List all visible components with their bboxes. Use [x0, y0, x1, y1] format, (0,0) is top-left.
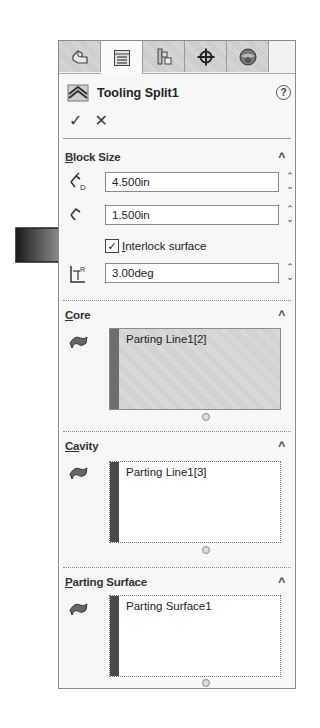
surface-body-icon [67, 462, 89, 484]
collapse-cavity-chevron-icon[interactable]: ^ [278, 439, 285, 453]
cavity-header[interactable]: Cavity ^ [65, 440, 289, 456]
tooling-split-icon [67, 84, 89, 102]
height-direction-icon [67, 204, 89, 226]
help-button[interactable]: ? [276, 85, 291, 100]
spin-up-icon[interactable]: ⌃ [285, 204, 295, 214]
cavity-selection-item[interactable]: Parting Line1[3] [126, 466, 207, 478]
tab-display-manager[interactable] [227, 41, 269, 72]
header-divider [63, 138, 291, 139]
config-icon [155, 48, 173, 66]
surface-body-icon [67, 331, 89, 353]
resize-grip-icon[interactable] [202, 679, 210, 687]
svg-text:R: R [80, 266, 85, 273]
sphere-icon [238, 47, 258, 67]
resize-grip-icon[interactable] [202, 546, 210, 554]
block-depth-input[interactable]: 4.500in [105, 172, 279, 192]
feature-title: Tooling Split1 [97, 86, 179, 100]
spin-up-icon[interactable]: ⌃ [285, 262, 295, 272]
crosshair-icon [197, 48, 215, 66]
draft-angle-icon: R [67, 262, 89, 284]
ok-button[interactable]: ✓ [69, 111, 82, 130]
parting-surface-selection-item[interactable]: Parting Surface1 [126, 600, 212, 612]
selection-color-bar [110, 596, 119, 676]
block-size-header[interactable]: Block Size ^ [65, 151, 289, 167]
draft-angle-spinner[interactable]: ⌃ ⌄ [285, 262, 295, 284]
spin-down-icon[interactable]: ⌄ [285, 214, 295, 224]
property-manager-panel: Tooling Split1 ? ✓ ✕ Block Size ^ D 4.50… [58, 40, 296, 689]
cavity-selection-box[interactable]: Parting Line1[3] [109, 461, 281, 543]
interlock-surface-row[interactable]: ✓ Interlock surface [105, 238, 206, 254]
collapse-block-size-chevron-icon[interactable]: ^ [278, 150, 285, 164]
selection-color-bar [110, 462, 119, 542]
tab-property-manager[interactable] [101, 41, 143, 74]
spin-down-icon[interactable]: ⌄ [285, 181, 295, 191]
core-selection-item[interactable]: Parting Line1[2] [126, 333, 207, 345]
spin-down-icon[interactable]: ⌄ [285, 272, 295, 282]
interlock-surface-checkbox[interactable]: ✓ [105, 239, 119, 253]
parting-surface-header[interactable]: Parting Surface ^ [65, 576, 289, 592]
block-height-spinner[interactable]: ⌃ ⌄ [285, 204, 295, 226]
spin-up-icon[interactable]: ⌃ [285, 171, 295, 181]
resize-grip-icon[interactable] [202, 413, 210, 421]
feature-title-row: Tooling Split1 ? [67, 83, 291, 103]
cancel-button[interactable]: ✕ [94, 111, 107, 130]
collapse-core-chevron-icon[interactable]: ^ [278, 308, 285, 322]
core-selection-box[interactable]: Parting Line1[2] [109, 328, 281, 410]
parting-surface-selection-box[interactable]: Parting Surface1 [109, 595, 281, 677]
section-divider [63, 567, 291, 568]
ok-cancel-row: ✓ ✕ [69, 111, 108, 130]
core-header[interactable]: Core ^ [65, 309, 289, 325]
block-depth-spinner[interactable]: ⌃ ⌄ [285, 171, 295, 193]
list-icon [113, 49, 131, 67]
block-height-input[interactable]: 1.500in [105, 205, 279, 225]
collapse-parting-surface-chevron-icon[interactable]: ^ [278, 575, 285, 589]
section-divider [63, 431, 291, 432]
selection-color-bar [110, 329, 119, 409]
tab-configuration-manager[interactable] [143, 41, 185, 72]
depth-direction-icon: D [67, 171, 89, 193]
part-icon [70, 48, 90, 66]
manager-tabs [59, 41, 295, 74]
svg-text:D: D [80, 183, 86, 192]
draft-angle-input[interactable]: 3.00deg [105, 263, 279, 283]
tab-feature-manager[interactable] [59, 41, 101, 72]
tab-dimxpert-manager[interactable] [185, 41, 227, 72]
section-divider [63, 300, 291, 301]
surface-body-icon [67, 598, 89, 620]
interlock-surface-label: Interlock surface [122, 240, 206, 252]
